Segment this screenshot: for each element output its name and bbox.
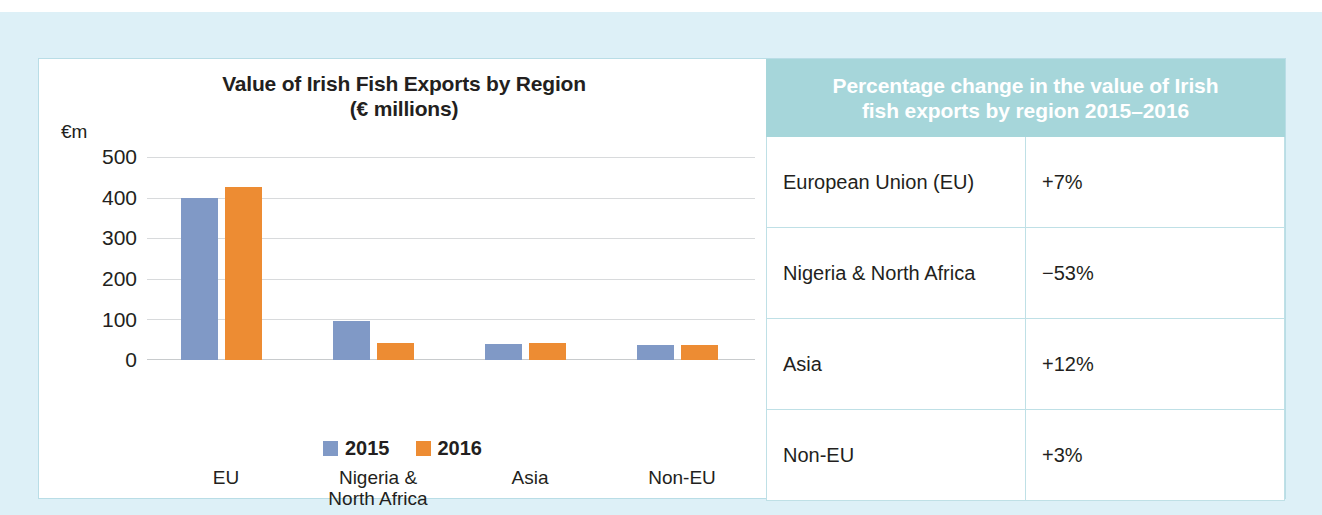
bar-group-eu — [181, 157, 271, 360]
bar-group-nigeria — [333, 157, 423, 360]
table-row: Asia +12% — [767, 319, 1285, 410]
outer-frame: Value of Irish Fish Exports by Region (€… — [0, 12, 1322, 515]
legend-label-2015: 2015 — [345, 437, 390, 460]
legend-swatch-icon-2015 — [323, 441, 338, 456]
y-tick-300: 300 — [59, 226, 137, 250]
x-label-eu: EU — [151, 467, 301, 488]
table-header-line-1: Percentage change in the value of Irish — [785, 73, 1266, 98]
bar-nigeria-2015 — [333, 321, 370, 360]
table-header-title: Percentage change in the value of Irish … — [767, 60, 1285, 137]
bar-asia-2015 — [485, 344, 522, 360]
x-label-asia: Asia — [455, 467, 605, 488]
y-tick-0: 0 — [59, 348, 137, 372]
plot-area: EU Nigeria & North Africa Asia Non-EU — [147, 157, 755, 360]
table-cell-change-2: +12% — [1026, 319, 1285, 410]
legend-item-2015: 2015 — [323, 437, 390, 460]
bar-eu-2016 — [225, 187, 262, 360]
y-tick-200: 200 — [59, 267, 137, 291]
chart-title-line-2: (€ millions) — [79, 96, 729, 121]
table-row: Non-EU +3% — [767, 410, 1285, 501]
bar-non-eu-2016 — [681, 345, 718, 360]
table-row: European Union (EU) +7% — [767, 137, 1285, 228]
legend-swatch-icon-2016 — [416, 441, 431, 456]
x-label-nigeria: Nigeria & North Africa — [303, 467, 453, 509]
legend-item-2016: 2016 — [416, 437, 483, 460]
chart-title: Value of Irish Fish Exports by Region (€… — [79, 71, 729, 121]
table-row: Nigeria & North Africa −53% — [767, 228, 1285, 319]
table-cell-region-0: European Union (EU) — [767, 137, 1026, 228]
percentage-change-table: Percentage change in the value of Irish … — [766, 59, 1285, 498]
bar-eu-2015 — [181, 198, 218, 360]
bar-chart: Value of Irish Fish Exports by Region (€… — [39, 59, 766, 498]
bar-nigeria-2016 — [377, 343, 414, 360]
y-tick-400: 400 — [59, 186, 137, 210]
table-cell-change-3: +3% — [1026, 410, 1285, 501]
x-label-non-eu: Non-EU — [607, 467, 757, 488]
table-cell-region-3: Non-EU — [767, 410, 1026, 501]
chart-legend: 2015 2016 — [39, 437, 766, 460]
table-cell-change-1: −53% — [1026, 228, 1285, 319]
y-axis-unit-label: €m — [61, 121, 87, 143]
bar-group-non-eu — [637, 157, 727, 360]
table-header-row: Percentage change in the value of Irish … — [767, 60, 1285, 137]
table-header-line-2: fish exports by region 2015–2016 — [785, 98, 1266, 123]
y-tick-100: 100 — [59, 308, 137, 332]
bar-non-eu-2015 — [637, 345, 674, 360]
y-tick-500: 500 — [59, 145, 137, 169]
table-cell-region-2: Asia — [767, 319, 1026, 410]
table-cell-region-1: Nigeria & North Africa — [767, 228, 1026, 319]
legend-label-2016: 2016 — [438, 437, 483, 460]
bar-group-asia — [485, 157, 575, 360]
content-panel: Value of Irish Fish Exports by Region (€… — [38, 58, 1286, 499]
table-cell-change-0: +7% — [1026, 137, 1285, 228]
chart-title-line-1: Value of Irish Fish Exports by Region — [79, 71, 729, 96]
bar-asia-2016 — [529, 343, 566, 360]
